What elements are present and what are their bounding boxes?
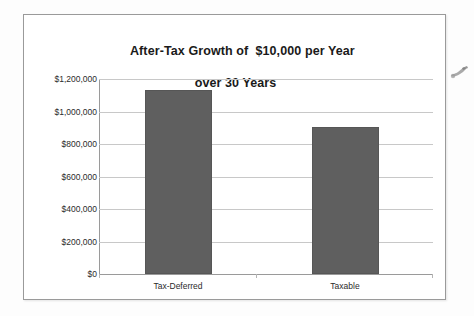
y-axis-label-0: $0: [25, 269, 97, 279]
gridline-1200000: [99, 79, 433, 80]
gridline-baseline: [99, 274, 433, 275]
x-axis-tick-start: [99, 274, 100, 278]
x-axis-label-taxable: Taxable: [330, 281, 359, 291]
plot-area: $1,200,000 $1,000,000 $800,000 $600,000 …: [99, 79, 433, 274]
y-axis-label-1200000: $1,200,000: [25, 74, 97, 84]
chart-frame: After-Tax Growth of $10,000 per Year ove…: [23, 14, 446, 300]
bar-taxable[interactable]: [312, 127, 379, 274]
y-axis-label-600000: $600,000: [25, 172, 97, 182]
y-axis-label-200000: $200,000: [25, 237, 97, 247]
bar-tax-deferred[interactable]: [145, 90, 212, 274]
y-axis-label-800000: $800,000: [25, 139, 97, 149]
x-axis-tick-end: [432, 274, 433, 278]
smudge-mark-icon: [448, 65, 470, 81]
chart-title-line-1: After-Tax Growth of $10,000 per Year: [130, 44, 355, 58]
y-axis-label-1000000: $1,000,000: [25, 107, 97, 117]
x-axis-tick-mid: [256, 274, 257, 278]
x-axis-label-tax-deferred: Tax-Deferred: [153, 281, 202, 291]
y-axis-label-400000: $400,000: [25, 204, 97, 214]
